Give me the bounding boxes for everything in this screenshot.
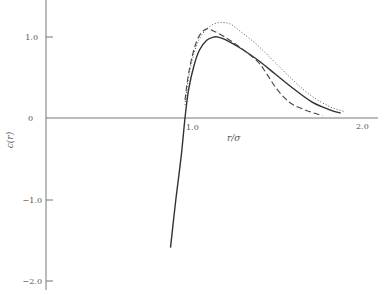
- x-axis-label: r/σ: [227, 133, 241, 143]
- y-axis-label: c(r): [5, 131, 15, 148]
- y-tick-label-0: 0: [28, 114, 33, 123]
- y-tick-label-m2: −2.0: [23, 277, 42, 286]
- x-ticks: 1.0 2.0: [186, 122, 369, 132]
- series-solid-line: [171, 37, 341, 248]
- chart-canvas: 1.0 0 −1.0 −2.0 1.0 2.0 r/σ c(r): [0, 0, 387, 295]
- y-tick-label-m1: −1.0: [23, 196, 42, 205]
- series-dotted-line: [185, 22, 344, 111]
- y-tick-label-1: 1.0: [25, 33, 38, 42]
- y-ticks: 1.0 0 −1.0 −2.0: [23, 33, 53, 286]
- x-tick-label-2: 2.0: [356, 122, 369, 131]
- x-tick-label-1: 1.0: [186, 123, 199, 132]
